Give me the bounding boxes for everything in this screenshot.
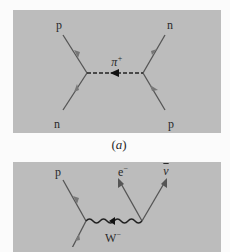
w-boson-label: W− xyxy=(105,231,121,244)
w-charge: − xyxy=(116,230,121,239)
particle-label-p: p xyxy=(55,166,61,178)
proton-line-b xyxy=(63,180,86,221)
electron-line xyxy=(119,180,142,221)
electron-label: e− xyxy=(118,165,128,178)
antineutrino-label: ν xyxy=(163,165,168,177)
w-symbol: W xyxy=(105,231,116,245)
neutron-line-b xyxy=(70,221,86,247)
arrow-left-icon xyxy=(109,217,115,225)
antineutrino-line xyxy=(142,180,166,221)
electron-charge: − xyxy=(123,164,128,173)
